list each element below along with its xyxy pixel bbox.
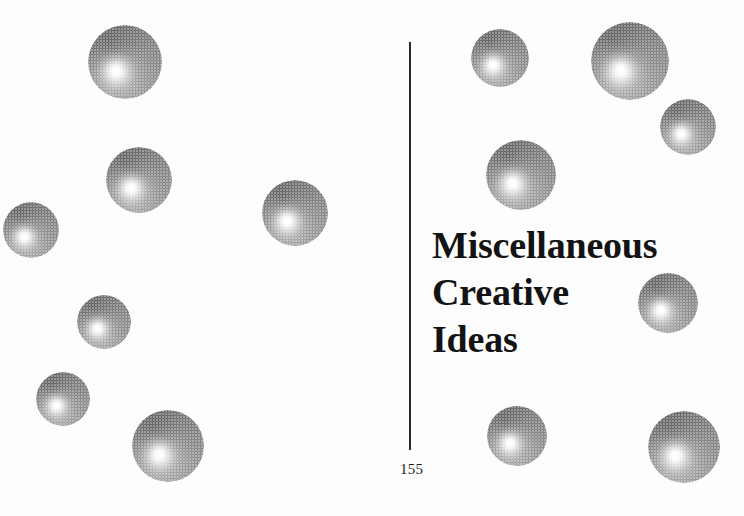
- page-title-line-3: Ideas: [432, 316, 657, 363]
- halftone-sphere: [3, 202, 59, 258]
- page-title-line-1: Miscellaneous: [432, 222, 657, 269]
- halftone-sphere: [486, 140, 556, 210]
- halftone-sphere: [262, 180, 328, 246]
- halftone-sphere: [132, 410, 204, 482]
- halftone-sphere: [591, 22, 669, 100]
- halftone-sphere: [648, 411, 720, 483]
- halftone-sphere: [106, 147, 172, 213]
- page-canvas: Miscellaneous Creative Ideas 155: [0, 0, 744, 516]
- halftone-sphere: [487, 406, 547, 466]
- halftone-sphere: [471, 29, 529, 87]
- vertical-rule-divider: [409, 42, 411, 450]
- halftone-sphere: [77, 295, 131, 349]
- page-title-line-2: Creative: [432, 269, 657, 316]
- halftone-sphere: [660, 99, 716, 155]
- page-number: 155: [400, 461, 423, 478]
- halftone-sphere: [88, 25, 162, 99]
- halftone-sphere: [36, 372, 90, 426]
- page-title: Miscellaneous Creative Ideas: [432, 222, 657, 363]
